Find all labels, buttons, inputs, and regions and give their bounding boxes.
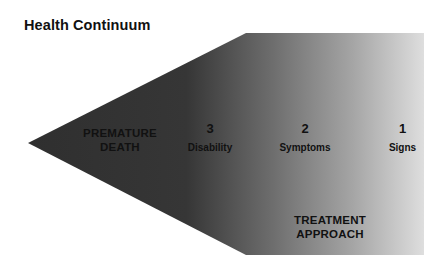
premature-death-line2: DEATH [70,140,170,154]
treatment-approach-label: TREATMENT APPROACH [280,213,380,241]
stage-3-number: 3 [180,122,240,136]
stage-2-label: Symptoms [270,142,340,154]
stage-2: 2 Symptoms [270,122,340,154]
treatment-approach-line1: TREATMENT [280,213,380,227]
stage-3-label: Disability [180,142,240,154]
stage-1-label: Signs [380,142,425,154]
premature-death-line1: PREMATURE [70,126,170,140]
premature-death-label: PREMATURE DEATH [70,126,170,154]
stage-1-number: 1 [380,122,425,136]
stage-3: 3 Disability [180,122,240,154]
treatment-approach-line2: APPROACH [280,227,380,241]
stage-2-number: 2 [270,122,340,136]
stage-1: 1 Signs [380,122,425,154]
